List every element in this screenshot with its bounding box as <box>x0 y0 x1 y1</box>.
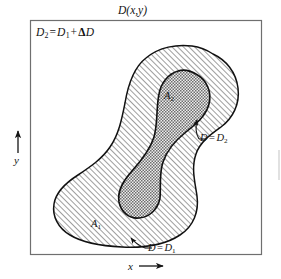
scan-edge-artifact <box>278 150 280 180</box>
delta-equation-label: D2=D1+ΔD <box>36 27 94 40</box>
contour-label-d1: D=D1 <box>148 243 176 255</box>
figure-title: D(x,y) <box>118 5 147 17</box>
y-axis-label: y <box>14 155 19 166</box>
figure-container: D(x,y) D2=D1+ΔD A2 A1 D=D2 D=D1 y x <box>0 0 281 279</box>
region-label-a2: A2 <box>164 91 174 103</box>
x-axis-label: x <box>128 261 133 272</box>
region-label-a1: A1 <box>91 219 101 231</box>
contour-diagram-svg <box>0 0 281 279</box>
contour-label-d2: D=D2 <box>200 133 228 145</box>
